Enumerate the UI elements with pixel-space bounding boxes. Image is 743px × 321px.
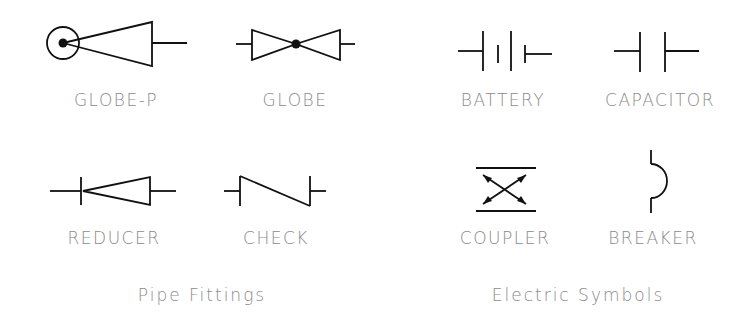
reducer-label: REDUCER	[67, 228, 160, 248]
breaker-symbol-icon	[651, 150, 667, 213]
battery-symbol-icon	[458, 31, 552, 71]
battery-label: BATTERY	[461, 90, 545, 110]
check-label: CHECK	[243, 228, 309, 248]
symbol-library-diagram: GLOBE-P GLOBE REDUCER CHECK BATTERY CAPA…	[0, 0, 743, 321]
capacitor-symbol-icon	[614, 32, 699, 72]
electric-symbols-title: Electric Symbols	[492, 285, 665, 305]
reducer-symbol-icon	[50, 177, 176, 205]
globe-label: GLOBE	[263, 90, 328, 110]
coupler-symbol-icon	[476, 168, 536, 211]
coupler-label: COUPLER	[460, 228, 550, 248]
breaker-label: BREAKER	[608, 228, 698, 248]
capacitor-label: CAPACITOR	[605, 90, 715, 110]
check-symbol-icon	[224, 176, 326, 206]
globe-p-symbol-icon	[47, 22, 187, 66]
symbols-canvas	[0, 0, 743, 321]
globe-p-label: GLOBE-P	[74, 90, 158, 110]
pipe-fittings-title: Pipe Fittings	[138, 285, 266, 305]
globe-symbol-icon	[236, 30, 355, 60]
